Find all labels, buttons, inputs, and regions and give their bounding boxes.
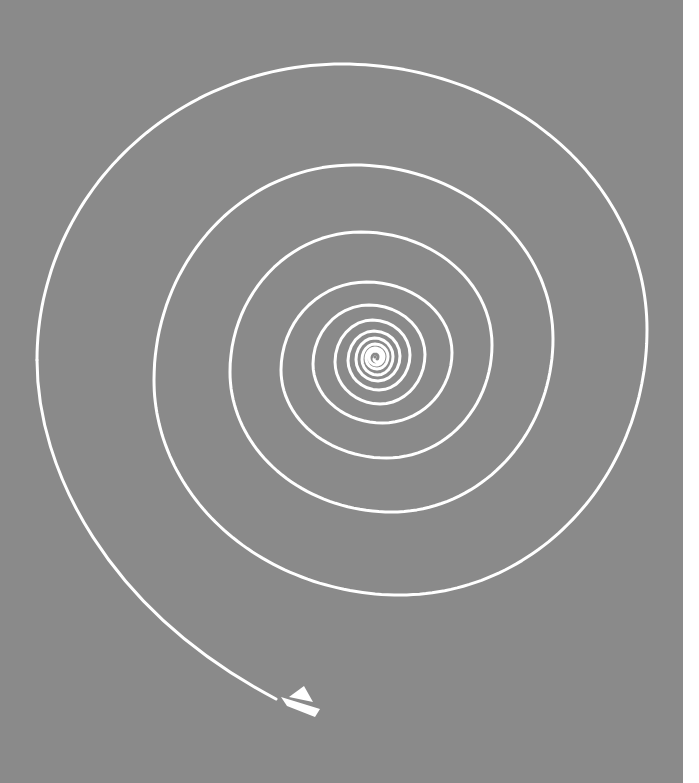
page-edge [683, 0, 699, 783]
artwork-canvas [0, 0, 683, 783]
grey-background [0, 0, 683, 783]
spiral-center-dot [373, 355, 376, 358]
